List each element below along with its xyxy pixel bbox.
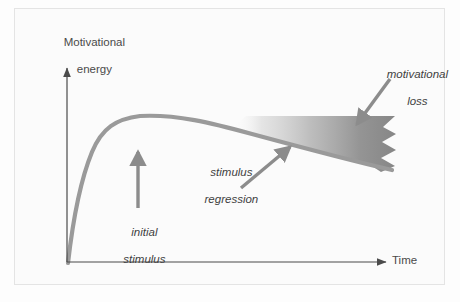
annotation-motivational-loss: motivational loss xyxy=(368,54,454,122)
annotation-initial-stimulus: initial stimulus xyxy=(102,212,174,280)
annotation-initial-stimulus-line1: initial xyxy=(131,226,157,238)
y-axis-title-line1: Motivational xyxy=(64,36,125,48)
annotation-stimulus-regression: stimulus regression xyxy=(186,152,264,220)
annotation-stimulus-regression-line2: regression xyxy=(205,193,259,205)
x-axis-title: Time xyxy=(392,254,417,268)
y-axis-title: Motivational energy xyxy=(42,22,134,90)
annotation-initial-stimulus-line2: stimulus xyxy=(123,253,165,265)
annotation-stimulus-regression-line1: stimulus xyxy=(210,166,252,178)
y-axis-title-line2: energy xyxy=(77,63,112,75)
figure-container: Motivational energy Time initial stimulu… xyxy=(0,0,460,302)
annotation-motivational-loss-line1: motivational xyxy=(387,68,448,80)
annotation-motivational-loss-line2: loss xyxy=(407,95,427,107)
